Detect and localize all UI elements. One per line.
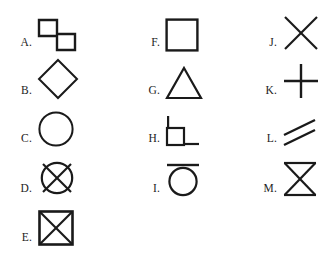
- list-item: J.: [255, 6, 320, 52]
- item-label-l: L.: [255, 132, 277, 148]
- list-item: E.: [10, 201, 75, 247]
- item-label-h: H.: [138, 132, 160, 148]
- item-label-i: I.: [138, 182, 160, 198]
- circle-with-x-icon: [37, 158, 77, 198]
- list-item: F.: [138, 6, 199, 52]
- list-item: K.: [255, 54, 320, 100]
- item-label-j: J.: [255, 36, 277, 52]
- list-item: D.: [10, 152, 77, 198]
- right-angle-square-icon: [165, 114, 201, 148]
- item-label-c: C.: [10, 132, 32, 148]
- item-label-e: E.: [10, 231, 32, 247]
- column-3: J. K. L.: [245, 0, 328, 253]
- plus-cross-icon: [282, 62, 320, 100]
- column-2: F. G. H.: [130, 0, 240, 253]
- symbol-sheet: A. B. C. D.: [0, 0, 328, 253]
- square-with-x-icon: [37, 209, 75, 247]
- list-item: B.: [10, 54, 79, 100]
- two-offset-squares-icon: [37, 18, 77, 52]
- parallel-diagonal-lines-icon: [282, 118, 320, 148]
- list-item: L.: [255, 102, 320, 148]
- list-item: G.: [138, 54, 203, 100]
- hourglass-icon: [282, 160, 318, 198]
- list-item: C.: [10, 102, 75, 148]
- item-label-m: M.: [255, 182, 277, 198]
- item-label-k: K.: [255, 84, 277, 100]
- item-label-a: A.: [10, 36, 32, 52]
- square-icon: [165, 18, 199, 52]
- list-item: I.: [138, 152, 201, 198]
- list-item: M.: [255, 152, 318, 198]
- item-label-d: D.: [10, 182, 32, 198]
- list-item: H.: [138, 102, 201, 148]
- x-cross-icon: [282, 14, 320, 52]
- list-item: A.: [10, 6, 77, 52]
- diamond-icon: [37, 58, 79, 100]
- column-1: A. B. C. D.: [0, 0, 118, 253]
- item-label-f: F.: [138, 36, 160, 52]
- item-label-b: B.: [10, 84, 32, 100]
- circle-icon: [37, 110, 75, 148]
- item-label-g: G.: [138, 84, 160, 100]
- triangle-icon: [165, 66, 203, 100]
- circle-with-top-bar-icon: [165, 160, 201, 198]
